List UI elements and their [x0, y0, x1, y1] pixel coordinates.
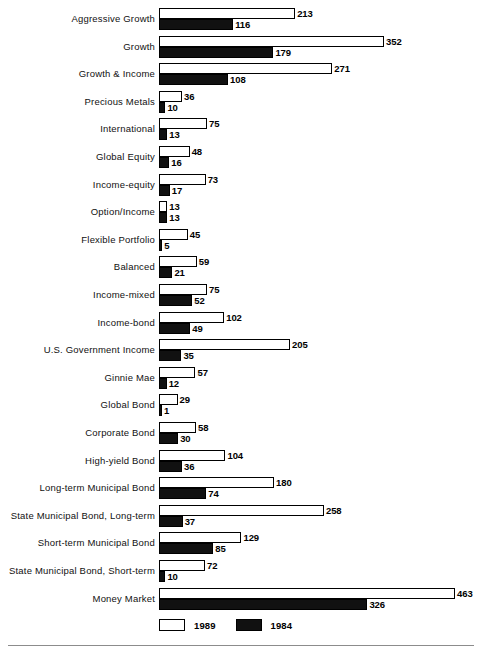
chart-row: Global Bond291: [0, 391, 481, 419]
bar-rect: [159, 212, 167, 223]
bar-rect: [159, 378, 167, 389]
bar-value-label: 30: [178, 433, 190, 444]
bar-value-label: 59: [197, 256, 209, 267]
bar-1989: 29: [159, 394, 190, 405]
bar-rect: [159, 312, 224, 323]
bar-value-label: 75: [207, 118, 219, 129]
bar-1984: 108: [159, 74, 246, 85]
bar-rect: [159, 118, 207, 129]
chart-legend: 1989 1984: [159, 617, 312, 633]
bar-1989: 13: [159, 201, 180, 212]
bar-rect: [159, 295, 192, 306]
category-label: U.S. Government Income: [44, 336, 155, 364]
category-label: International: [100, 115, 155, 143]
bar-value-label: 74: [206, 488, 218, 499]
chart-row: Growth & Income271108: [0, 60, 481, 88]
bar-value-label: 129: [241, 532, 259, 543]
category-label: Growth: [123, 33, 155, 61]
bar-1989: 271: [159, 63, 350, 74]
bar-1984: 5: [159, 240, 169, 251]
chart-row: Ginnie Mae5712: [0, 364, 481, 392]
category-label: High-yield Bond: [85, 447, 155, 475]
bar-value-label: 85: [213, 543, 225, 554]
bar-value-label: 36: [182, 91, 194, 102]
bar-rect: [159, 284, 207, 295]
bar-1989: 129: [159, 532, 259, 543]
bar-rect: [159, 256, 197, 267]
bar-value-label: 104: [225, 450, 243, 461]
bar-1989: 36: [159, 91, 194, 102]
bar-value-label: 36: [182, 461, 194, 472]
bar-value-label: 352: [384, 36, 402, 47]
legend-item-1984: 1984: [236, 619, 293, 631]
bar-rect: [159, 350, 181, 361]
bar-value-label: 75: [207, 284, 219, 295]
legend-swatch-1989: [159, 619, 185, 631]
bar-1989: 59: [159, 256, 209, 267]
bar-1984: 30: [159, 433, 191, 444]
bar-rect: [159, 129, 167, 140]
bar-value-label: 17: [170, 185, 182, 196]
bar-1984: 1: [159, 405, 169, 416]
bar-value-label: 213: [295, 8, 313, 19]
category-label: Global Equity: [96, 143, 155, 171]
bar-1984: 37: [159, 516, 195, 527]
bar-value-label: 179: [273, 47, 291, 58]
bar-1989: 58: [159, 422, 208, 433]
bar-value-label: 463: [455, 588, 473, 599]
bar-1984: 10: [159, 102, 178, 113]
legend-label-1984: 1984: [271, 620, 293, 631]
bar-value-label: 180: [274, 477, 292, 488]
bar-rect: [159, 91, 182, 102]
bar-1989: 463: [159, 588, 473, 599]
bar-value-label: 10: [165, 102, 177, 113]
category-label: Global Bond: [101, 391, 155, 419]
chart-row: Income-mixed7552: [0, 281, 481, 309]
bar-value-label: 35: [181, 350, 193, 361]
bar-rect: [159, 367, 195, 378]
bar-rect: [159, 505, 324, 516]
bottom-divider: [8, 645, 474, 646]
bar-value-label: 13: [167, 201, 179, 212]
bar-1984: 36: [159, 461, 194, 472]
category-label: Growth & Income: [79, 60, 155, 88]
bar-value-label: 58: [196, 422, 208, 433]
bar-1989: 45: [159, 229, 200, 240]
bar-1984: 74: [159, 488, 219, 499]
bar-1984: 10: [159, 571, 178, 582]
bar-1989: 258: [159, 505, 342, 516]
chart-row: State Municipal Bond, Long-term25837: [0, 502, 481, 530]
bar-1984: 16: [159, 157, 182, 168]
bar-value-label: 271: [332, 63, 350, 74]
bar-rect: [159, 201, 167, 212]
chart-row: Balanced5921: [0, 253, 481, 281]
plot-area: Aggressive Growth213116Growth352179Growt…: [0, 0, 481, 600]
legend-label-1989: 1989: [194, 620, 216, 631]
bar-rect: [159, 450, 225, 461]
bar-1984: 179: [159, 47, 291, 58]
category-label: Money Market: [93, 585, 155, 613]
bar-value-label: 13: [167, 212, 179, 223]
bar-value-label: 258: [324, 505, 342, 516]
bar-1989: 205: [159, 339, 308, 350]
category-label: State Municipal Bond, Short-term: [9, 557, 155, 585]
bar-value-label: 21: [172, 267, 184, 278]
bar-1989: 352: [159, 36, 402, 47]
bar-1989: 73: [159, 174, 218, 185]
category-label: State Municipal Bond, Long-term: [11, 502, 155, 530]
horizontal-bar-chart: Aggressive Growth213116Growth352179Growt…: [0, 0, 481, 660]
bar-1984: 13: [159, 129, 180, 140]
bar-value-label: 108: [228, 74, 246, 85]
category-label: Ginnie Mae: [105, 364, 155, 392]
bar-rect: [159, 8, 295, 19]
bar-1989: 48: [159, 146, 202, 157]
chart-row: Option/Income1313: [0, 198, 481, 226]
bar-1984: 21: [159, 267, 185, 278]
bar-rect: [159, 36, 384, 47]
chart-row: U.S. Government Income20535: [0, 336, 481, 364]
bar-value-label: 102: [224, 312, 242, 323]
bar-rect: [159, 477, 274, 488]
category-label: Precious Metals: [85, 88, 155, 116]
bar-rect: [159, 488, 206, 499]
category-label: Corporate Bond: [85, 419, 155, 447]
